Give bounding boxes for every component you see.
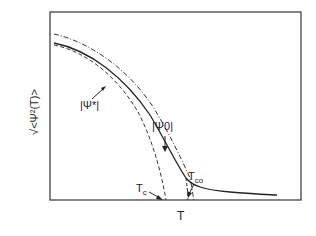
y-axis-label: √<Ψ²(T)>	[28, 89, 40, 135]
tco-arrowhead	[187, 191, 192, 198]
psi-0-curve	[54, 43, 277, 195]
psi-0-label: |Ψ0|	[152, 120, 173, 132]
psi-star-curve	[54, 34, 194, 200]
tc-arrowhead	[156, 195, 163, 200]
psi-0-arrowhead	[162, 146, 168, 152]
dashed-curve	[54, 45, 166, 200]
tc-label: Tc	[136, 182, 147, 197]
psi-star-label: |Ψ*|	[80, 99, 99, 111]
chart: |Ψ*| |Ψ0| Tc Tco T √<Ψ²(T)>	[0, 0, 316, 236]
x-axis-label: T	[177, 209, 185, 223]
y-axis-label-group: √<Ψ²(T)>	[28, 89, 40, 135]
